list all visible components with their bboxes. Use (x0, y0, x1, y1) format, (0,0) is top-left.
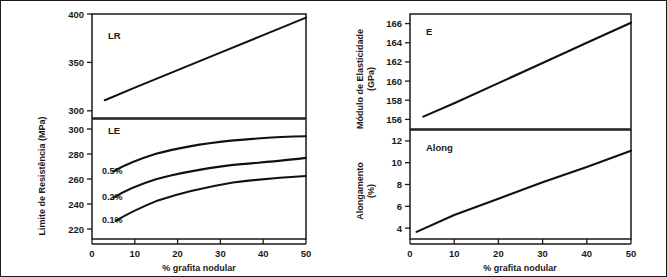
left-xtick-50: 50 (301, 248, 312, 259)
le-label-02: 0.2% (102, 192, 123, 202)
left-xtick-40: 40 (258, 248, 269, 259)
right-xtick-30: 30 (537, 248, 548, 259)
left-panel-svg: Limite de Resistência (MPa) 400 350 300 … (1, 1, 341, 277)
right-xtick-40: 40 (582, 248, 593, 259)
lr-ytick-300: 300 (68, 105, 84, 116)
e-subplot: Módulo de Elasticidade (GPa) 166 164 162… (355, 14, 631, 129)
lr-ytick-350: 350 (68, 57, 84, 68)
right-xtick-10: 10 (449, 248, 460, 259)
along-ytick-4: 4 (397, 223, 403, 234)
right-xtick-50: 50 (626, 248, 637, 259)
lr-tag-label: LR (108, 30, 121, 41)
e-y-axis-title-line1: Módulo de Elasticidade (355, 29, 365, 129)
e-ytick-160: 160 (386, 76, 402, 87)
along-ytick-10: 10 (391, 157, 402, 168)
right-panel: Módulo de Elasticidade (GPa) 166 164 162… (341, 1, 667, 277)
e-tag-label: E (426, 26, 432, 37)
le-label-01: 0.1% (102, 215, 123, 225)
along-subplot: Alongamento (%) 12 10 8 6 4 (355, 130, 631, 239)
right-panel-svg: Módulo de Elasticidade (GPa) 166 164 162… (341, 1, 667, 277)
lr-subplot: 400 350 300 LR (68, 9, 306, 119)
right-xtick-20: 20 (493, 248, 504, 259)
e-ytick-158: 158 (386, 95, 402, 106)
left-xtick-10: 10 (130, 248, 141, 259)
left-xtick-20: 20 (172, 248, 183, 259)
le-ytick-240: 240 (68, 199, 84, 210)
right-xtick-0: 0 (407, 248, 412, 259)
le-label-05: 0.5% (102, 166, 123, 176)
le-ytick-280: 280 (68, 149, 84, 160)
le-ytick-300: 300 (68, 124, 84, 135)
e-ytick-162: 162 (386, 56, 402, 67)
le-ytick-220: 220 (68, 224, 84, 235)
left-x-axis-title: % grafita nodular (162, 263, 236, 273)
along-y-axis-title-line1: Alongamento (355, 162, 365, 220)
e-plot-border (410, 14, 631, 129)
e-ytick-166: 166 (386, 18, 402, 29)
lr-ytick-400: 400 (68, 9, 84, 20)
e-y-axis-title-line2: (GPa) (366, 67, 376, 91)
along-ytick-8: 8 (397, 179, 402, 190)
left-y-axis-title: Limite de Resistência (MPa) (37, 116, 47, 235)
le-ytick-260: 260 (68, 174, 84, 185)
left-xtick-30: 30 (215, 248, 226, 259)
right-x-axis-title: % grafita nodular (483, 263, 557, 273)
along-ytick-12: 12 (391, 135, 402, 146)
e-ytick-164: 164 (386, 37, 403, 48)
e-ytick-156: 156 (386, 114, 402, 125)
left-panel: Limite de Resistência (MPa) 400 350 300 … (1, 1, 341, 277)
left-xtick-0: 0 (89, 248, 94, 259)
le-subplot: 300 280 260 240 220 0.5% 0.2% 0.1% LE (68, 119, 306, 239)
along-tag-label: Along (426, 142, 453, 153)
along-y-axis-title-line2: (%) (366, 184, 376, 198)
along-ytick-6: 6 (397, 201, 402, 212)
le-tag-label: LE (108, 125, 120, 136)
figure-frame: Limite de Resistência (MPa) 400 350 300 … (0, 0, 667, 277)
